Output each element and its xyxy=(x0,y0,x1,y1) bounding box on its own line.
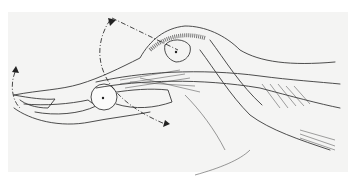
finger-anatomy-drawing xyxy=(0,0,356,179)
mcp-flexion-line xyxy=(112,18,178,50)
arrowhead-left xyxy=(12,66,19,73)
mcp-joint-head xyxy=(165,40,191,62)
palmar-skin-outline xyxy=(14,108,150,124)
pip-rotation-center xyxy=(102,97,104,99)
mcp-rotation-center xyxy=(175,51,177,53)
arrowhead-bottom xyxy=(163,120,170,127)
middle-phalanx xyxy=(116,89,172,107)
extensor-hood xyxy=(150,35,205,50)
flexor-tendon-lower xyxy=(96,81,340,108)
illustration-frame xyxy=(0,0,356,179)
lumbrical-tendon xyxy=(200,50,330,150)
dip-rotation-arc xyxy=(12,72,20,108)
palm-crease xyxy=(195,150,250,175)
digital-nerve xyxy=(185,95,225,150)
fingertip-nail xyxy=(14,95,55,108)
